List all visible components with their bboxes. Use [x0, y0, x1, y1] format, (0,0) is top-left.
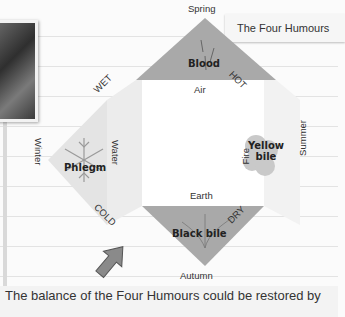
element-earth: Earth: [190, 190, 213, 201]
humour-yellow-bile: Yellow bile: [236, 140, 296, 162]
season-winter: Winter: [33, 138, 44, 165]
element-air: Air: [194, 84, 206, 95]
humour-blood: Blood: [188, 58, 220, 69]
season-spring: Spring: [188, 3, 215, 14]
arrow-icon: [91, 239, 133, 282]
element-water: Water: [110, 140, 121, 165]
blood-triangle: [136, 18, 276, 80]
caption-text: The balance of the Four Humours could be…: [0, 286, 338, 317]
humour-black-bile: Black bile: [172, 228, 227, 239]
humour-phlegm: Phlegm: [64, 162, 106, 173]
season-autumn: Autumn: [180, 270, 213, 281]
season-summer: Summer: [297, 120, 308, 156]
